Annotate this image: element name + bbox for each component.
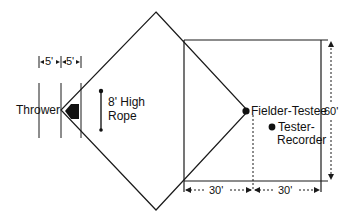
diamond-field-outline bbox=[61, 12, 248, 210]
thrower-label: Thrower bbox=[16, 104, 60, 117]
spacing-label-1: 5' bbox=[45, 55, 53, 68]
rope-label-line1: 8' High bbox=[108, 96, 145, 109]
spacing-arrow-1a bbox=[40, 60, 44, 64]
spacing-arrow-2b bbox=[76, 60, 80, 64]
height-arrow-top bbox=[328, 41, 334, 47]
fielder-label: Fielder-Testee bbox=[251, 105, 327, 118]
rope-bottom-dot bbox=[99, 128, 103, 132]
rope-top-dot bbox=[99, 89, 103, 93]
spacing-arrow-1b bbox=[56, 60, 60, 64]
height-arrow-bottom bbox=[328, 174, 334, 180]
height-label: 60' bbox=[324, 105, 338, 118]
bottom-label-left: 30' bbox=[209, 184, 223, 197]
spacing-label-2: 5' bbox=[66, 55, 74, 68]
tester-label-line2: Recorder bbox=[277, 134, 326, 147]
tester-marker bbox=[269, 124, 276, 131]
fielder-marker bbox=[242, 107, 249, 114]
rope-label-line2: Rope bbox=[108, 110, 137, 123]
bottom-label-right: 30' bbox=[278, 184, 292, 197]
